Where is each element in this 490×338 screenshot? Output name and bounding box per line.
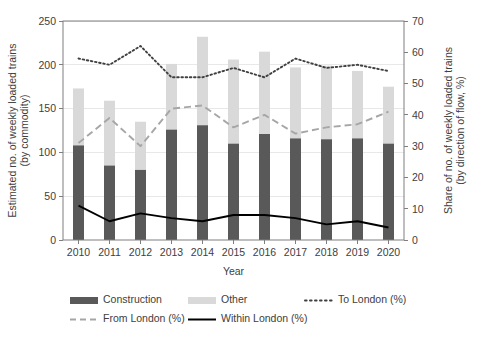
- bar-stack: [166, 64, 177, 240]
- bar-segment-construction: [73, 145, 84, 240]
- legend-swatch-construction: [70, 297, 98, 304]
- bar-stack: [290, 67, 301, 240]
- y-axis-title: Estimated no. of weekly loaded trains: [6, 44, 18, 218]
- chart-canvas: 0501001502002500102030405060702010201120…: [0, 0, 490, 338]
- bar-segment-other: [73, 88, 84, 145]
- x-axis-tick-label: 2011: [98, 246, 121, 258]
- bar-segment-other: [259, 52, 270, 134]
- y-axis-tick-label: 250: [38, 15, 56, 27]
- legend-label-other: Other: [221, 293, 248, 305]
- bar-stack: [197, 37, 208, 240]
- y2-axis-tick-label: 30: [412, 140, 424, 152]
- y2-axis-tick-label: 20: [412, 171, 424, 183]
- bar-stack: [352, 71, 363, 240]
- y2-axis-tick-label: 60: [412, 46, 424, 58]
- x-axis-tick-label: 2018: [315, 246, 339, 258]
- bar-segment-other: [290, 67, 301, 138]
- bar-segment-construction: [166, 130, 177, 240]
- y2-axis-tick-label: 10: [412, 203, 424, 215]
- y2-axis-title: Share of no. of weekly loaded trains: [442, 47, 454, 214]
- bar-segment-other: [197, 37, 208, 125]
- bar-segment-other: [383, 87, 394, 144]
- chart-legend: ConstructionOtherTo London (%)From Londo…: [70, 293, 406, 324]
- legend-item-within-london: Within London (%): [188, 312, 307, 324]
- y-axis-tick-label: 200: [38, 59, 56, 71]
- legend-label-from-london: From London (%): [103, 312, 185, 324]
- legend-item-other: Other: [188, 293, 248, 305]
- legend-item-from-london: From London (%): [70, 312, 185, 324]
- bar-stack: [383, 87, 394, 240]
- bar-segment-construction: [352, 138, 363, 240]
- bar-stack: [73, 88, 84, 240]
- y-axis-tick-label: 150: [38, 102, 56, 114]
- x-axis-tick-label: 2013: [160, 246, 184, 258]
- legend-item-construction: Construction: [70, 293, 162, 305]
- bars-group: [73, 37, 394, 240]
- x-axis-tick-label: 2019: [346, 246, 370, 258]
- legend-swatch-other: [188, 297, 216, 304]
- bar-stack: [321, 66, 332, 240]
- x-axis-tick-label: 2014: [191, 246, 215, 258]
- y-axis-title-secondline: (by commodity): [18, 95, 30, 167]
- bar-stack: [259, 52, 270, 240]
- x-axis-title: Year: [223, 265, 245, 277]
- bar-segment-construction: [259, 134, 270, 240]
- chart-container: 0501001502002500102030405060702010201120…: [0, 0, 490, 338]
- legend-item-to-london: To London (%): [305, 293, 406, 305]
- y-axis-tick-label: 0: [50, 234, 56, 246]
- bar-segment-other: [228, 60, 239, 144]
- y2-axis-title-secondline: (by direction of flow, %): [454, 76, 466, 185]
- legend-label-within-london: Within London (%): [221, 312, 307, 324]
- y2-axis-tick-label: 50: [412, 77, 424, 89]
- x-axis-tick-label: 2015: [222, 246, 246, 258]
- bar-segment-construction: [290, 138, 301, 240]
- bar-stack: [135, 122, 146, 240]
- y2-axis-tick-label: 70: [412, 15, 424, 27]
- bar-segment-other: [352, 71, 363, 138]
- x-axis-tick-label: 2012: [129, 246, 153, 258]
- legend-label-to-london: To London (%): [338, 293, 406, 305]
- bar-segment-construction: [197, 125, 208, 240]
- x-axis-tick-label: 2010: [67, 246, 91, 258]
- y2-axis-tick-label: 0: [412, 234, 418, 246]
- bar-segment-other: [104, 101, 115, 166]
- y2-axis-tick-label: 40: [412, 109, 424, 121]
- bar-segment-construction: [104, 166, 115, 240]
- bar-segment-construction: [135, 170, 146, 240]
- x-axis-tick-label: 2016: [253, 246, 277, 258]
- bar-stack: [228, 60, 239, 240]
- bar-segment-construction: [383, 144, 394, 240]
- x-axis-tick-label: 2017: [284, 246, 308, 258]
- y-axis-tick-label: 50: [44, 190, 56, 202]
- x-axis-tick-label: 2020: [377, 246, 401, 258]
- y-axis-tick-label: 100: [38, 146, 56, 158]
- bar-segment-construction: [228, 144, 239, 240]
- legend-label-construction: Construction: [103, 293, 162, 305]
